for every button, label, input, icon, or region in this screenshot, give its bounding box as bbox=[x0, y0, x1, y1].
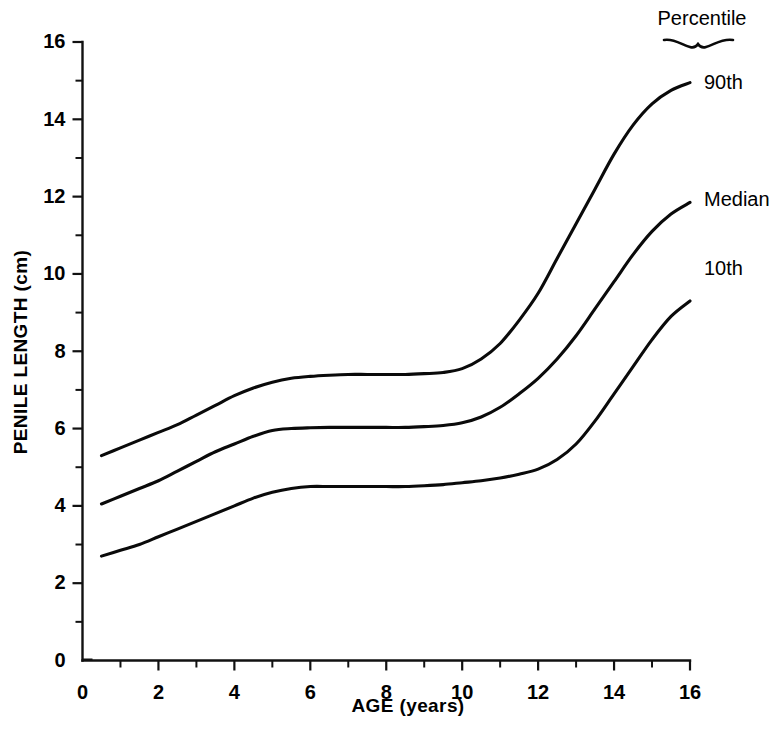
y-tick-label: 16 bbox=[43, 30, 65, 52]
x-tick-label: 6 bbox=[305, 681, 316, 703]
y-axis-ticks bbox=[73, 42, 83, 622]
x-axis-title: AGE (years) bbox=[351, 695, 464, 716]
y-tick-label: 8 bbox=[54, 340, 65, 362]
chart-axes bbox=[83, 42, 691, 661]
y-tick-label: 2 bbox=[54, 571, 65, 593]
y-tick-label: 10 bbox=[43, 262, 65, 284]
y-tick-label: 4 bbox=[54, 494, 66, 516]
chart-container: 0246810121416 0246810121416 AGE (years) … bbox=[0, 0, 772, 743]
legend-brace-icon bbox=[664, 40, 733, 48]
data-series-group bbox=[101, 83, 690, 557]
series-label-90th: 90th bbox=[704, 71, 743, 93]
series-label-median: Median bbox=[704, 188, 770, 210]
x-tick-label: 4 bbox=[229, 681, 241, 703]
x-tick-label: 2 bbox=[153, 681, 164, 703]
legend-title: Percentile bbox=[658, 7, 747, 29]
y-tick-label: 14 bbox=[43, 108, 66, 130]
y-axis-tick-labels: 0246810121416 bbox=[43, 30, 66, 671]
series-curve-90th bbox=[101, 83, 690, 456]
penile-length-percentile-chart: 0246810121416 0246810121416 AGE (years) … bbox=[0, 0, 772, 743]
y-tick-label: 0 bbox=[54, 649, 65, 671]
series-label-10th: 10th bbox=[704, 257, 743, 279]
y-tick-label: 6 bbox=[54, 417, 65, 439]
y-tick-label: 12 bbox=[43, 185, 65, 207]
series-inline-labels: 90thMedian10th bbox=[704, 71, 770, 279]
x-tick-label: 0 bbox=[77, 681, 88, 703]
series-curve-median bbox=[101, 202, 690, 504]
y-axis-title: PENILE LENGTH (cm) bbox=[10, 250, 31, 455]
x-tick-label: 16 bbox=[679, 681, 701, 703]
x-tick-label: 12 bbox=[527, 681, 549, 703]
x-tick-label: 14 bbox=[603, 681, 626, 703]
